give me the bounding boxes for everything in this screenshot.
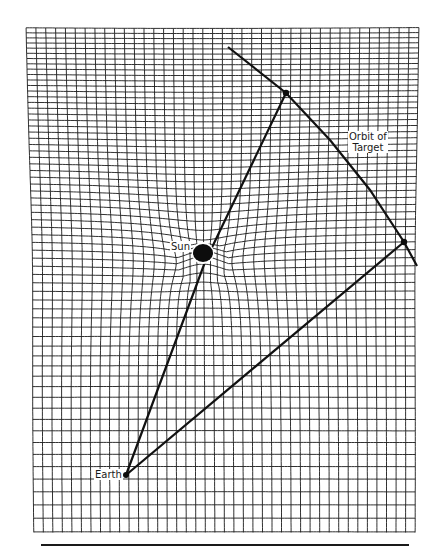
grid-row-line	[30, 183, 416, 189]
sun-label: Sun	[170, 241, 191, 252]
sun-icon	[193, 244, 213, 262]
grid-row-line	[33, 346, 415, 347]
grid-row-line	[33, 317, 415, 318]
grid-row-line	[33, 355, 415, 356]
grid-column-line	[346, 28, 350, 532]
target-position-2-icon	[401, 239, 407, 245]
grid-row-line	[33, 282, 415, 284]
grid-column-line	[385, 28, 389, 533]
grid-column-line	[395, 28, 399, 533]
grid-column-line	[336, 28, 340, 532]
grid-row-line	[33, 336, 415, 337]
grid-column-line	[405, 28, 409, 533]
bottom-rule-divider	[41, 544, 409, 546]
grid-column-line	[85, 28, 92, 532]
spacetime-diagram: Sun Earth Orbit of Target	[0, 0, 442, 557]
grid-row-line	[31, 204, 416, 213]
grid-row-line	[30, 157, 417, 161]
grid-column-line	[36, 28, 43, 533]
grid-column-line	[65, 28, 72, 532]
curved-spacetime-grid	[0, 0, 442, 557]
grid-column-line	[26, 28, 34, 533]
grid-row-line	[33, 308, 415, 309]
grid-row-line	[31, 190, 416, 197]
earth-icon	[123, 472, 129, 478]
grid-column-line	[56, 28, 63, 532]
grid-column-line	[316, 28, 321, 532]
grid-row-line	[33, 299, 415, 300]
grid-column-line	[366, 28, 370, 533]
grid-row-line	[33, 291, 415, 292]
target-position-1-icon	[283, 90, 289, 96]
grid-row-line	[33, 326, 415, 327]
grid-column-line	[95, 28, 103, 532]
orbit-label-line-1: Orbit of	[349, 131, 387, 142]
grid-column-line	[326, 28, 331, 532]
grid-column-line	[105, 28, 113, 532]
orbit-label-line-2: Target	[349, 142, 387, 153]
grid-row-line	[31, 197, 416, 204]
orbit-of-target-label: Orbit of Target	[348, 131, 388, 153]
grid-row-line	[30, 177, 416, 182]
grid-column-line	[415, 28, 419, 533]
grid-column-line	[46, 28, 53, 533]
grid-column-line	[376, 28, 380, 533]
grid-row-line	[30, 163, 417, 167]
grid-column-line	[306, 28, 311, 532]
earth-label: Earth	[94, 469, 123, 480]
grid-column-line	[75, 28, 82, 532]
